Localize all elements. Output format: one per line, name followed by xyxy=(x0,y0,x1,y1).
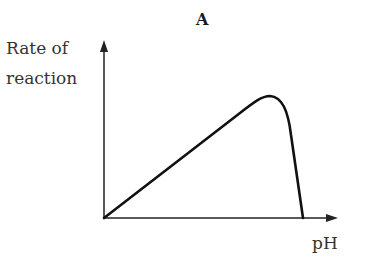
rate-curve xyxy=(104,96,303,218)
chart-plot xyxy=(0,0,370,270)
y-axis-arrow-icon xyxy=(100,40,108,52)
x-axis-arrow-icon xyxy=(326,214,338,222)
